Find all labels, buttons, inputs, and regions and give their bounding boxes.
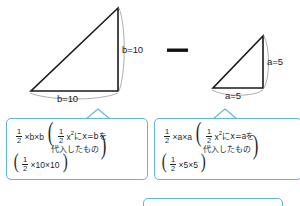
right-substitution-note: 代入したもの	[203, 145, 251, 154]
fraction-one-half: 1 2	[16, 128, 22, 145]
right-multiplier-term: ×a×a	[173, 132, 192, 142]
fraction-one-half-value: 1 2	[170, 156, 176, 173]
left-formula: 1 2 ×b×b ( 1 2 x2にx=bを 代入したもの) (	[7, 119, 147, 179]
right-callout-box: 1 2 ×a×a ( 1 2 x2にx=aを 代入したもの) (	[154, 118, 300, 180]
right-formula-line-2: 代入したもの)	[203, 143, 260, 154]
right-formula-line-3: ( 1 2 ×5×5 )	[161, 156, 207, 173]
fraction-one-half-inner: 1 2	[58, 128, 64, 145]
fraction-one-half-value: 1 2	[22, 156, 28, 173]
right-inner-substitution-text: にx=aを	[222, 132, 254, 141]
left-formula-line-3: ( 1 2 ×10×10 )	[13, 156, 68, 173]
small-right-triangle	[213, 36, 263, 88]
right-numeric-values: ×5×5	[179, 160, 198, 170]
large-right-triangle	[31, 8, 118, 91]
large-triangle-vertical-label: b=10	[122, 44, 143, 55]
small-triangle-horizontal-label: a=5	[225, 90, 241, 101]
bottom-callout-box	[143, 198, 283, 206]
small-triangle-outline	[213, 36, 263, 88]
left-multiplier-term: ×b×b	[25, 132, 44, 142]
fraction-one-half: 1 2	[164, 128, 170, 145]
right-formula: 1 2 ×a×a ( 1 2 x2にx=aを 代入したもの) (	[155, 119, 300, 179]
fraction-one-half-inner: 1 2	[206, 128, 212, 145]
minus-sign	[167, 49, 188, 52]
large-triangle-outline	[31, 8, 118, 91]
small-triangle-vertical-label: a=5	[267, 56, 283, 67]
figure-canvas: b=10 b=10 a=5 a=5 1 2 ×b×b ( 1 2 x2にx=bを	[0, 0, 300, 206]
large-triangle-horizontal-label: b=10	[57, 93, 78, 104]
left-numeric-values: ×10×10	[31, 160, 60, 170]
left-formula-line-2: 代入したもの)	[51, 143, 108, 154]
left-substitution-note: 代入したもの	[51, 145, 99, 154]
left-callout-box: 1 2 ×b×b ( 1 2 x2にx=bを 代入したもの) (	[6, 118, 148, 180]
